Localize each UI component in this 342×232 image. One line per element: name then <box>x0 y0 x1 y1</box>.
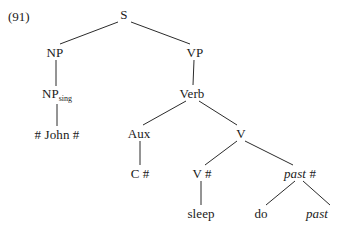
tree-edge-s-to-vp <box>131 22 190 44</box>
tree-node-do: do <box>254 207 267 220</box>
tree-node-label: NP <box>42 86 59 101</box>
tree-node-label: sleep <box>187 206 214 221</box>
tree-node-label: Verb <box>180 86 205 101</box>
tree-node-s: S <box>120 8 127 21</box>
tree-node-label: past <box>284 166 306 181</box>
tree-node-john: # John # <box>35 128 80 141</box>
tree-edge-v_mid-to-v_hash <box>205 141 237 165</box>
tree-edge-past_hash-to-do <box>266 181 295 205</box>
tree-node-label: do <box>254 206 267 221</box>
tree-node-past: past <box>306 207 328 220</box>
tree-edge-s-to-np <box>60 22 118 44</box>
tree-node-label: past <box>306 206 328 221</box>
tree-edges <box>0 0 342 232</box>
tree-node-subscript: sing <box>59 94 72 103</box>
tree-edge-verb-to-v_mid <box>199 101 237 125</box>
tree-node-label: VP <box>187 45 204 60</box>
tree-node-label: V <box>236 126 246 141</box>
tree-node-v_mid: V <box>236 127 246 140</box>
tree-node-past_hash: past # <box>284 167 316 180</box>
tree-edge-vp-to-verb <box>193 60 194 85</box>
tree-node-c_hash: C # <box>131 167 150 180</box>
tree-node-np: NP <box>47 46 64 59</box>
tree-node-label: # John # <box>35 127 80 142</box>
tree-node-v_hash: V # <box>192 167 211 180</box>
tree-node-label: NP <box>47 45 64 60</box>
tree-node-aux: Aux <box>128 127 151 140</box>
syntax-tree-figure: (91) SNPVPNPsing# John #VerbAuxVC #V #pa… <box>0 0 342 232</box>
tree-edge-verb-to-aux <box>143 101 186 125</box>
tree-node-label: S <box>120 7 127 22</box>
tree-node-sleep: sleep <box>187 207 214 220</box>
tree-node-label: C # <box>131 166 150 181</box>
tree-node-verb: Verb <box>180 87 205 100</box>
tree-node-label: V # <box>192 166 211 181</box>
example-number: (91) <box>8 10 30 23</box>
tree-edge-v_mid-to-past_hash <box>245 141 293 165</box>
boundary-hash-marker: # <box>306 166 316 181</box>
tree-node-npsing: NPsing <box>42 87 72 104</box>
tree-node-label: Aux <box>128 126 151 141</box>
tree-edge-past_hash-to-past <box>303 181 330 205</box>
tree-node-vp: VP <box>187 46 204 59</box>
